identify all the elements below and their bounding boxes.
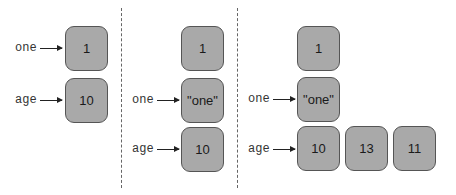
value-box: 1 — [65, 26, 108, 71]
divider — [237, 8, 238, 188]
variable-label-age: age — [248, 143, 270, 155]
value-box: "one" — [181, 78, 224, 123]
arrow-icon — [273, 99, 295, 100]
variable-label-age: age — [132, 143, 154, 155]
value-box: 13 — [345, 126, 388, 171]
arrow-icon — [273, 149, 295, 150]
variable-label-age: age — [15, 94, 37, 106]
value-box: 1 — [297, 26, 340, 71]
arrow-icon — [157, 100, 179, 101]
value-box: 10 — [297, 126, 340, 171]
arrow-icon — [40, 100, 62, 101]
value-box: 10 — [181, 127, 224, 172]
variable-label-one: one — [132, 94, 154, 106]
arrow-icon — [40, 48, 62, 49]
variable-label-one: one — [15, 42, 37, 54]
divider — [121, 8, 122, 188]
arrow-icon — [157, 149, 179, 150]
value-box: "one" — [297, 77, 340, 122]
value-box: 10 — [65, 78, 108, 123]
value-box: 1 — [181, 26, 224, 71]
variable-label-one: one — [248, 93, 270, 105]
value-box: 11 — [393, 126, 436, 171]
